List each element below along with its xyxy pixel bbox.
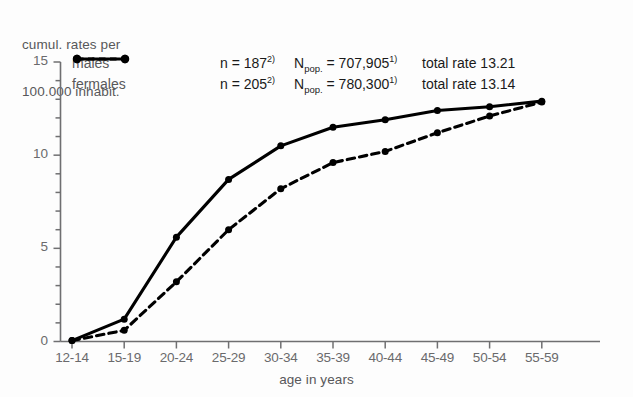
data-point <box>330 124 337 131</box>
legend-npop: Npop. = 707,9051) <box>294 55 422 71</box>
data-point <box>173 278 180 285</box>
data-point <box>225 226 232 233</box>
x-tick-label: 35-39 <box>316 350 350 365</box>
chart-container: cumul. rates per 100.000 inhabit. 051015… <box>0 0 633 397</box>
y-axis-ticks <box>54 62 61 342</box>
x-tick-label: 15-19 <box>107 350 141 365</box>
x-tick-label: 30-34 <box>264 350 298 365</box>
legend-stats: n = 2052) Npop. = 780,3001) total rate 1… <box>220 76 515 92</box>
data-point <box>486 103 493 110</box>
x-tick-label: 40-44 <box>368 350 402 365</box>
data-point <box>225 176 232 183</box>
legend-stats: n = 1872) Npop. = 707,9051) total rate 1… <box>220 55 515 71</box>
data-point <box>173 234 180 241</box>
legend-total-rate: total rate 13.14 <box>422 76 515 92</box>
data-point <box>486 113 493 120</box>
data-point <box>434 129 441 136</box>
series-line-males <box>72 101 542 340</box>
data-point <box>277 185 284 192</box>
y-tick-label: 5 <box>8 239 48 254</box>
y-tick-label: 0 <box>8 333 48 348</box>
chart-legend: males n = 1872) Npop. = 707,9051) total … <box>72 52 515 94</box>
legend-n: n = 1872) <box>220 55 294 71</box>
x-axis-title: age in years <box>0 372 633 388</box>
x-tick-label: 12-14 <box>55 350 89 365</box>
data-point <box>382 148 389 155</box>
x-axis-ticks <box>72 342 542 349</box>
data-series-layer <box>69 98 546 344</box>
legend-series-name: fermales <box>72 76 158 92</box>
x-tick-label: 50-54 <box>473 350 507 365</box>
data-point <box>538 99 545 106</box>
legend-n: n = 2052) <box>220 76 294 92</box>
legend-row: fermales n = 2052) Npop. = 780,3001) tot… <box>72 73 515 94</box>
legend-total-rate: total rate 13.21 <box>422 55 515 71</box>
x-tick-label: 20-24 <box>160 350 194 365</box>
data-point <box>330 159 337 166</box>
data-point <box>277 142 284 149</box>
data-point <box>121 316 128 323</box>
x-tick-label: 55-59 <box>525 350 559 365</box>
data-point <box>121 327 128 334</box>
x-tick-label: 25-29 <box>212 350 246 365</box>
legend-npop: Npop. = 780,3001) <box>294 76 422 92</box>
y-tick-label: 15 <box>8 53 48 68</box>
x-tick-label: 45-49 <box>421 350 455 365</box>
data-point <box>69 337 76 344</box>
data-point <box>434 107 441 114</box>
data-point <box>382 116 389 123</box>
y-tick-label: 10 <box>8 146 48 161</box>
legend-row: males n = 1872) Npop. = 707,9051) total … <box>72 52 515 73</box>
